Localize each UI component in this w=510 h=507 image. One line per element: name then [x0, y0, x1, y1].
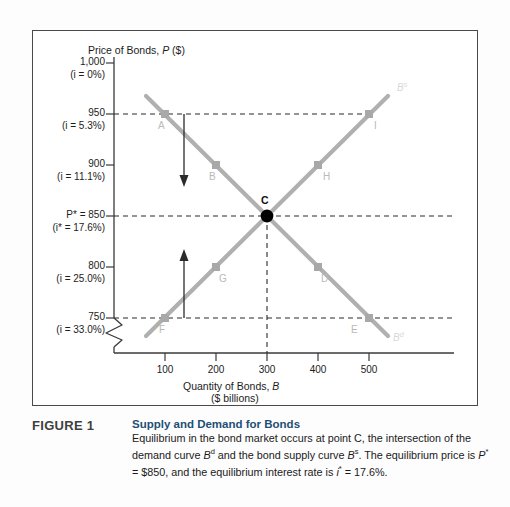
supply-curve-label-text: B: [397, 82, 404, 93]
y-tick-800-rate: (i = 25.0%): [5, 273, 105, 286]
y-tick-900-rate: (i = 11.1%): [5, 171, 105, 184]
y-axis-unit: ($): [169, 44, 185, 56]
y-tick-750-rate: (i = 33.0%): [5, 324, 105, 337]
x-tick-100: 100: [145, 364, 185, 375]
caption-line-2-pre: demand curve: [132, 449, 203, 461]
point-label-C: C: [261, 194, 269, 206]
demand-curve-label-sup: d: [400, 331, 404, 338]
caption-bd-symbol: B: [203, 449, 210, 461]
excess-demand-arrow: [180, 249, 189, 318]
supply-curve-label: Bs: [397, 81, 407, 93]
point-marker-H: [314, 161, 322, 169]
excess-supply-arrow: [180, 114, 189, 187]
x-tick-200: 200: [196, 364, 236, 375]
y-tick-900: 900 (i = 11.1%): [5, 158, 105, 183]
point-label-I: I: [374, 120, 377, 131]
caption-line-2-mid: and the bond supply curve: [215, 449, 348, 461]
y-tick-950-price: 950: [5, 107, 105, 120]
caption-line-3-mid: = $850, and the equilibrium interest rat…: [132, 466, 336, 478]
y-tick-800: 800 (i = 25.0%): [5, 260, 105, 285]
point-label-H: H: [323, 171, 330, 182]
dashed-price-lines: [114, 114, 454, 318]
equilibrium-point-C: [261, 210, 274, 223]
y-tick-950: 950 (i = 5.3%): [5, 107, 105, 132]
point-label-B: B: [209, 171, 216, 182]
caption-line-2-post: . The equilibrium price is: [358, 449, 475, 461]
y-axis-title: Price of Bonds, P ($): [88, 44, 185, 56]
point-label-F: F: [159, 324, 165, 335]
caption-body: Supply and Demand for Bonds Equilibrium …: [132, 418, 492, 479]
chart-plot-frame: Price of Bonds, P ($) 1,000 (i = 0%) 950…: [32, 30, 478, 406]
x-axis-unit: ($ billions): [211, 392, 259, 404]
y-tick-900-price: 900: [5, 158, 105, 171]
y-tick-750-price: 750: [5, 311, 105, 324]
point-marker-A: [161, 110, 169, 118]
y-tick-750: 750 (i = 33.0%): [5, 311, 105, 336]
y-tick-850: P* = 850 (i* = 17.6%): [5, 209, 105, 234]
point-label-D: D: [321, 273, 328, 284]
point-marker-B: [212, 161, 220, 169]
caption-line-1: Equilibrium in the bond market occurs at…: [132, 432, 471, 444]
axis-break-symbol: [106, 318, 122, 347]
y-tick-1000-price: 1,000: [5, 56, 105, 69]
point-marker-G: [212, 263, 220, 271]
caption-line-3-end: = 17.6%.: [342, 466, 388, 478]
caption-bs-symbol: B: [347, 449, 354, 461]
y-tick-1000: 1,000 (i = 0%): [5, 56, 105, 81]
x-tick-marks: [165, 353, 369, 361]
demand-curve-label: Bd: [393, 331, 404, 343]
x-axis-title: Quantity of Bonds, B: [183, 380, 279, 392]
y-tick-marks: [106, 63, 114, 318]
supply-curve-label-sup: s: [404, 81, 408, 88]
point-marker-E: [365, 314, 373, 322]
y-tick-850-price: P* = 850: [5, 209, 105, 222]
point-label-E: E: [351, 324, 358, 335]
y-tick-950-rate: (i = 5.3%): [5, 120, 105, 133]
x-tick-300: 300: [247, 364, 287, 375]
x-axis-symbol: B: [272, 380, 279, 392]
caption-p-star: *: [485, 447, 488, 456]
y-tick-850-rate: (i* = 17.6%): [5, 222, 105, 235]
figure-caption: FIGURE 1 Supply and Demand for Bonds Equ…: [32, 418, 492, 479]
point-marker-F: [161, 314, 169, 322]
point-marker-I: [365, 110, 373, 118]
y-tick-1000-rate: (i = 0%): [5, 69, 105, 82]
caption-title: Supply and Demand for Bonds: [132, 418, 492, 430]
y-axis-title-text: Price of Bonds,: [88, 44, 162, 56]
demand-curve-label-text: B: [393, 332, 400, 343]
point-label-A: A: [158, 120, 165, 131]
x-tick-500: 500: [349, 364, 389, 375]
figure-root: Price of Bonds, P ($) 1,000 (i = 0%) 950…: [0, 0, 510, 507]
x-tick-400: 400: [298, 364, 338, 375]
point-marker-D: [314, 263, 322, 271]
point-label-G: G: [219, 273, 227, 284]
x-axis-title-text: Quantity of Bonds,: [183, 380, 272, 392]
figure-number: FIGURE 1: [32, 418, 132, 433]
y-tick-800-price: 800: [5, 260, 105, 273]
caption-text: Equilibrium in the bond market occurs at…: [132, 431, 492, 479]
